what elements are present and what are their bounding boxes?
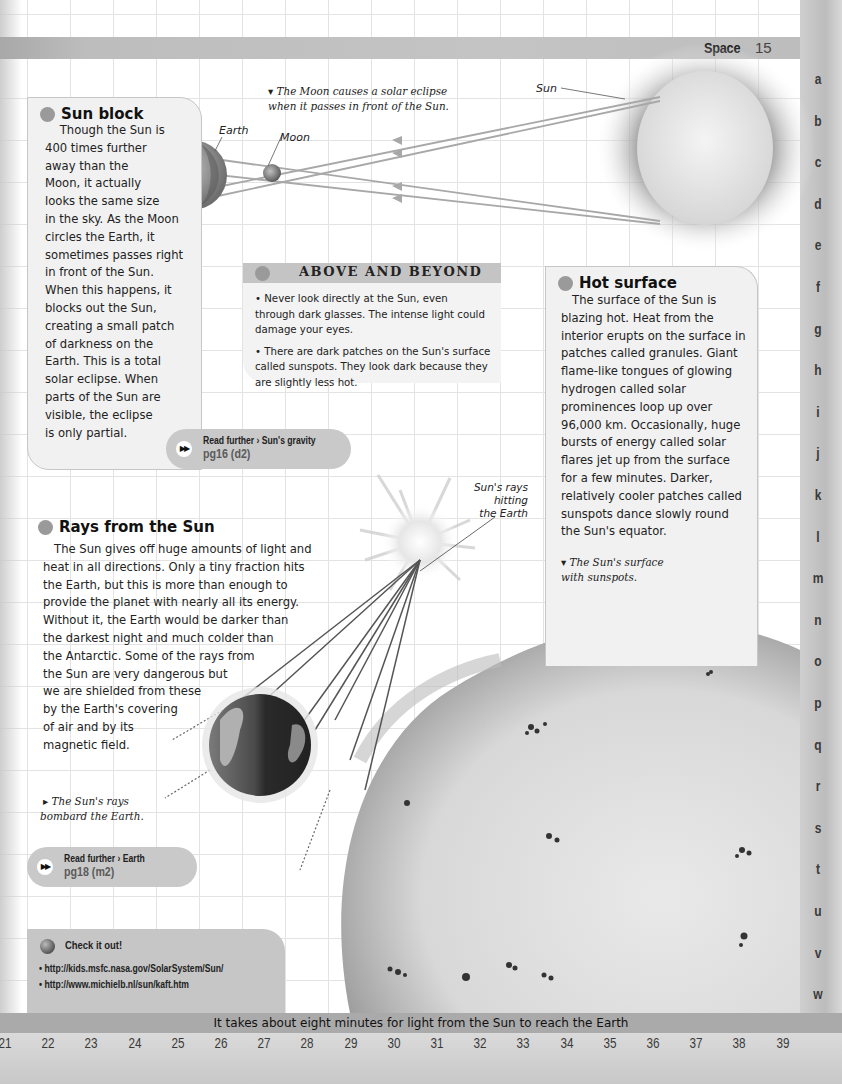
moon-illustration <box>263 164 281 182</box>
bullet-circle-icon <box>255 266 270 281</box>
body-line: solar eclipse. When <box>45 371 205 389</box>
body-line: flares jet up from the surface <box>561 452 759 470</box>
body-line: The surface of the Sun is <box>561 292 759 310</box>
grid-column-number: 38 <box>728 1034 751 1051</box>
body-line: Without it, the Earth would be darker th… <box>43 612 343 630</box>
triangle-down-icon: ▾ <box>268 85 277 97</box>
grid-column-number: 37 <box>684 1034 707 1051</box>
body-line: the Sun are very dangerous but <box>43 666 343 684</box>
sun-surface-illustration <box>341 611 800 1013</box>
body-line: prominences loop up over <box>561 399 759 417</box>
body-line: sometimes passes right <box>45 247 205 265</box>
body-line: by the Earth's covering <box>43 701 343 719</box>
sun-illustration <box>595 43 815 253</box>
body-line: magnetic field. <box>43 737 343 755</box>
rays-caption-line2: bombard the Earth. <box>40 809 144 824</box>
hot-surface-panel: Hot surface The surface of the Sun isbla… <box>545 266 758 666</box>
grid-column-number: 22 <box>36 1034 59 1051</box>
body-line: 96,000 km. Occasionally, huge <box>561 417 759 435</box>
fast-forward-icon: ▶▶ <box>37 859 53 875</box>
grid-column-number: 36 <box>641 1034 664 1051</box>
grid-column-number: 28 <box>296 1034 319 1051</box>
eclipse-caption-line1: ▾ The Moon causes a solar eclipse <box>268 84 447 99</box>
nasa-sun-link[interactable]: • http://kids.msfc.nasa.gov/SolarSystem/… <box>39 962 223 974</box>
body-line: the Antarctic. Some of the rays from <box>43 648 343 666</box>
grid-column-number: 30 <box>382 1034 405 1051</box>
body-line: the darkest night and much colder than <box>43 630 343 648</box>
globe-icon <box>40 939 55 954</box>
read-further-sun-gravity-link[interactable]: ▶▶ Read further › Sun's gravity pg16 (d2… <box>166 429 351 469</box>
body-line: hydrogen called solar <box>561 381 759 399</box>
grid-column-number: 26 <box>209 1034 232 1051</box>
rays-body: The Sun gives off huge amounts of light … <box>43 541 343 755</box>
body-line: When this happens, it <box>45 282 205 300</box>
body-line: flame-like tongues of glowing <box>561 363 759 381</box>
suns-rays-label: Sun's rayshittingthe Earth <box>462 481 528 520</box>
label-line: the Earth <box>462 507 528 520</box>
grid-column-number: 24 <box>123 1034 146 1051</box>
bullet-circle-icon <box>38 520 53 535</box>
grid-column-number: 32 <box>468 1034 491 1051</box>
read-further-label: Read further › Earth <box>64 852 145 864</box>
check-it-out-heading: Check it out! <box>65 939 122 951</box>
body-line: looks the same size <box>45 193 205 211</box>
grid-column-number: 29 <box>339 1034 362 1051</box>
sun-block-panel: Sun block Though the Sun is400 times fur… <box>27 97 202 470</box>
body-line: the Earth, but this is more than enough … <box>43 577 343 595</box>
body-line: in the sky. As the Moon <box>45 211 205 229</box>
bullet-circle-icon <box>40 107 55 122</box>
tip-item: • Never look directly at the Sun, even t… <box>255 291 491 338</box>
body-line: sunspots dance slowly round <box>561 506 759 524</box>
body-line: parts of the Sun are <box>45 389 205 407</box>
body-line: in front of the Sun. <box>45 264 205 282</box>
grid-column-number: 21 <box>0 1034 17 1051</box>
hot-surface-heading: Hot surface <box>558 274 677 292</box>
body-line: Earth. This is a total <box>45 353 205 371</box>
fast-forward-icon: ▶▶ <box>176 441 192 457</box>
body-line: we are shielded from these <box>43 683 343 701</box>
body-line: The Sun gives off huge amounts of light … <box>43 541 343 559</box>
tip-item: • There are dark patches on the Sun's su… <box>255 344 491 391</box>
body-line: for a few minutes. Darker, <box>561 470 759 488</box>
read-further-label: Read further › Sun's gravity <box>203 434 316 446</box>
rays-heading: Rays from the Sun <box>38 518 215 536</box>
body-line: the Sun's equator. <box>561 523 759 541</box>
eclipse-caption-line2: when it passes in front of the Sun. <box>268 99 449 114</box>
label-line: Sun's rays <box>462 481 528 494</box>
grid-column-number: 31 <box>425 1034 448 1051</box>
body-line: patches called granules. Giant <box>561 345 759 363</box>
moon-label: Moon <box>280 131 310 144</box>
body-line: of air and by its <box>43 719 343 737</box>
body-line: creating a small patch <box>45 318 205 336</box>
bullet-circle-icon <box>558 276 573 291</box>
rays-caption-line1: ▸ The Sun's rays <box>43 794 129 809</box>
read-further-page-ref: pg18 (m2) <box>64 864 114 879</box>
earth-label: Earth <box>219 124 249 137</box>
body-line: blazing hot. Heat from the <box>561 310 759 328</box>
grid-column-number: 27 <box>252 1034 275 1051</box>
body-line: relatively cooler patches called <box>561 488 759 506</box>
body-line: circles the Earth, it <box>45 229 205 247</box>
body-line: bursts of energy called solar <box>561 434 759 452</box>
read-further-earth-link[interactable]: ▶▶ Read further › Earth pg18 (m2) <box>27 847 197 887</box>
check-it-out-panel: Check it out! • http://kids.msfc.nasa.go… <box>27 929 285 1019</box>
body-line: blocks out the Sun, <box>45 300 205 318</box>
sun-surface-caption-line2: with sunspots. <box>561 570 637 585</box>
sun-block-heading: Sun block <box>40 105 143 123</box>
grid-column-number: 34 <box>555 1034 578 1051</box>
above-and-beyond-header: ABOVE AND BEYOND <box>243 263 501 283</box>
body-line: visible, the eclipse <box>45 407 205 425</box>
label-line: hitting <box>462 494 528 507</box>
sun-block-body: Though the Sun is400 times furtheraway t… <box>45 122 205 442</box>
ray-arrowheads <box>392 136 402 203</box>
sun-label: Sun <box>536 82 557 95</box>
above-and-beyond-body: • Never look directly at the Sun, even t… <box>243 283 501 383</box>
body-line: away than the <box>45 158 205 176</box>
body-line: heat in all directions. Only a tiny frac… <box>43 559 343 577</box>
eclipse-ray-lines <box>218 97 660 224</box>
body-line: of darkness on the <box>45 336 205 354</box>
michielb-sun-link[interactable]: • http://www.michielb.nl/sun/kaft.htm <box>39 978 189 990</box>
grid-column-number: 35 <box>598 1034 621 1051</box>
grid-column-number: 39 <box>771 1034 794 1051</box>
hot-surface-body: The surface of the Sun isblazing hot. He… <box>561 292 759 541</box>
